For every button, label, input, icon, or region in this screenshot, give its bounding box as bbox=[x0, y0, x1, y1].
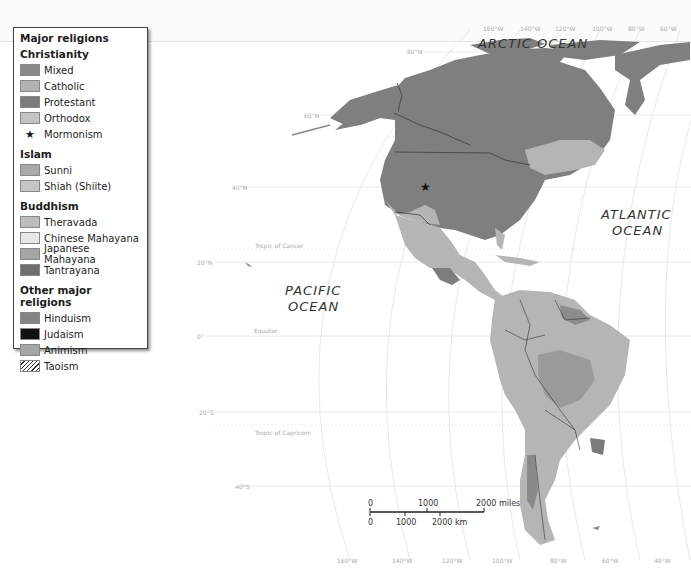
lon-label: 140°W bbox=[392, 557, 412, 564]
legend-item-orthodox: Orthodox bbox=[20, 110, 141, 126]
star-icon: ★ bbox=[20, 128, 40, 141]
legend: Major religions Christianity Mixed Catho… bbox=[13, 27, 148, 349]
legend-item-sunni: Sunni bbox=[20, 162, 141, 178]
scale-miles-1000: 1000 bbox=[418, 499, 438, 508]
legend-item-theravada: Theravada bbox=[20, 214, 141, 230]
swatch bbox=[20, 312, 40, 324]
legend-heading: Buddhism bbox=[20, 200, 141, 212]
legend-label: Chinese Mahayana bbox=[44, 233, 139, 244]
hawaii bbox=[245, 262, 252, 267]
swatch bbox=[20, 112, 40, 124]
swatch bbox=[20, 96, 40, 108]
arctic-ocean-label: ARCTIC OCEAN bbox=[477, 36, 588, 51]
lon-label: 120°W bbox=[442, 557, 462, 564]
legend-heading: Christianity bbox=[20, 48, 141, 60]
lat-label: 80°N bbox=[407, 48, 422, 55]
legend-label: Shiah (Shiite) bbox=[44, 181, 111, 192]
lon-label: 60°W bbox=[602, 557, 619, 564]
legend-group-other: Other major religions Hinduism Judaism A… bbox=[20, 284, 141, 374]
swatch bbox=[20, 344, 40, 356]
swatch bbox=[20, 216, 40, 228]
lon-label: 160°W bbox=[483, 25, 503, 32]
legend-label: Sunni bbox=[44, 165, 72, 176]
legend-item-catholic: Catholic bbox=[20, 78, 141, 94]
pacific-ocean-label-2: OCEAN bbox=[288, 299, 339, 314]
legend-item-mormonism: ★Mormonism bbox=[20, 126, 141, 142]
aleutian-islands bbox=[292, 125, 330, 135]
legend-label: Japanese Mahayana bbox=[44, 243, 141, 265]
lon-label: 100°W bbox=[592, 25, 612, 32]
scale-km-0: 0 bbox=[368, 518, 373, 527]
lon-label: 100°W bbox=[492, 557, 512, 564]
scale-miles-0: 0 bbox=[368, 499, 373, 508]
legend-group-buddhism: Buddhism Theravada Chinese Mahayana Japa… bbox=[20, 200, 141, 278]
scale-km-2000: 2000 km bbox=[432, 518, 468, 527]
lat-label: 20°S bbox=[199, 409, 214, 416]
swatch bbox=[20, 232, 40, 244]
legend-item-taoism: Taoism bbox=[20, 358, 141, 374]
legend-label: Animism bbox=[44, 345, 87, 356]
lon-label: 60°W bbox=[660, 25, 677, 32]
legend-item-japanese-mahayana: Japanese Mahayana bbox=[20, 246, 141, 262]
legend-title: Major religions bbox=[20, 32, 141, 44]
legend-item-judaism: Judaism bbox=[20, 326, 141, 342]
lat-label: 0° bbox=[197, 333, 204, 340]
lon-label: 80°W bbox=[550, 557, 567, 564]
tropic-of-capricorn-label: Tropic of Capricorn bbox=[254, 429, 311, 437]
swatch bbox=[20, 180, 40, 192]
scale-km-1000: 1000 bbox=[396, 518, 416, 527]
pacific-ocean-label-1: PACIFIC bbox=[285, 283, 341, 298]
hatch-swatch bbox=[20, 360, 40, 372]
tropic-of-cancer-label: Tropic of Cancer bbox=[254, 242, 304, 250]
swatch bbox=[20, 80, 40, 92]
legend-item-protestant: Protestant bbox=[20, 94, 141, 110]
legend-label: Tantrayana bbox=[44, 265, 100, 276]
legend-label: Theravada bbox=[44, 217, 97, 228]
swatch bbox=[20, 64, 40, 76]
legend-label: Hinduism bbox=[44, 313, 91, 324]
scale-miles-2000: 2000 miles bbox=[476, 499, 520, 508]
swatch bbox=[20, 164, 40, 176]
legend-item-shiah: Shiah (Shiite) bbox=[20, 178, 141, 194]
legend-heading: Other major religions bbox=[20, 284, 141, 308]
lat-label: 60°N bbox=[304, 112, 319, 119]
atlantic-ocean-label-1: ATLANTIC bbox=[600, 207, 672, 222]
swatch bbox=[20, 328, 40, 340]
legend-label: Orthodox bbox=[44, 113, 90, 124]
legend-item-animism: Animism bbox=[20, 342, 141, 358]
swatch bbox=[20, 264, 40, 276]
lon-label: 80°W bbox=[628, 25, 645, 32]
lat-label: 40°S bbox=[235, 483, 250, 490]
legend-group-islam: Islam Sunni Shiah (Shiite) bbox=[20, 148, 141, 194]
lat-label: 40°N bbox=[232, 184, 247, 191]
legend-heading: Islam bbox=[20, 148, 141, 160]
legend-label: Catholic bbox=[44, 81, 85, 92]
lat-label: 20°N bbox=[197, 259, 212, 266]
swatch bbox=[20, 248, 40, 260]
falkland-islands bbox=[592, 526, 600, 530]
lon-label: 160°W bbox=[337, 557, 357, 564]
legend-label: Judaism bbox=[44, 329, 84, 340]
legend-label: Taoism bbox=[44, 361, 78, 372]
lon-label: 40°W bbox=[654, 557, 671, 564]
legend-label: Mormonism bbox=[44, 129, 103, 140]
legend-group-christianity: Christianity Mixed Catholic Protestant O… bbox=[20, 48, 141, 142]
equator-label: Equator bbox=[254, 327, 278, 335]
legend-item-hinduism: Hinduism bbox=[20, 310, 141, 326]
legend-item-mixed: Mixed bbox=[20, 62, 141, 78]
legend-label: Protestant bbox=[44, 97, 95, 108]
legend-label: Mixed bbox=[44, 65, 74, 76]
lon-label: 120°W bbox=[555, 25, 575, 32]
atlantic-ocean-label-2: OCEAN bbox=[612, 223, 663, 238]
lon-label: 140°W bbox=[520, 25, 540, 32]
scale-bar: 0 1000 2000 miles 0 1000 2000 km bbox=[368, 499, 520, 527]
mormonism-star-icon: ★ bbox=[420, 180, 431, 194]
